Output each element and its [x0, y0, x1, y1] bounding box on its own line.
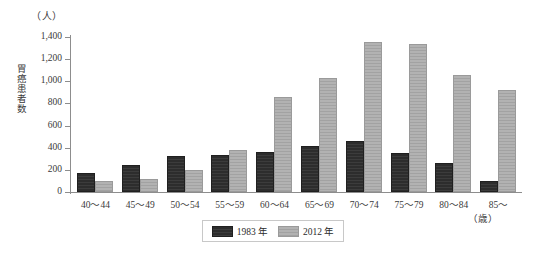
bar-1983: [391, 153, 409, 192]
bar-group: [252, 37, 297, 192]
bar-2012: [229, 150, 247, 192]
bar-1983: [301, 146, 319, 192]
legend-item-1983: 1983 年: [212, 224, 268, 238]
y-tick-label: 1,400: [0, 31, 62, 41]
bar-1983: [435, 163, 453, 192]
bar-group: [297, 37, 342, 192]
bar-2012: [453, 75, 471, 192]
y-tick-label: 200: [0, 164, 62, 174]
bar-group: [431, 37, 476, 192]
bar-group: [387, 37, 432, 192]
bar-2012: [409, 44, 427, 192]
bar-2012: [274, 97, 292, 192]
legend-label-1983: 1983 年: [237, 224, 268, 238]
legend-swatch-1983: [212, 226, 233, 237]
bar-1983: [256, 152, 274, 192]
legend-swatch-2012: [278, 226, 299, 237]
y-tick-label: 400: [0, 142, 62, 152]
bar-1983: [346, 141, 364, 192]
bar-2012: [95, 181, 113, 192]
y-tick-label: 600: [0, 120, 62, 130]
y-tick-label: 0: [0, 186, 62, 196]
bar-group: [73, 37, 118, 192]
y-tick-label: 800: [0, 97, 62, 107]
legend-label-2012: 2012 年: [303, 224, 334, 238]
y-tick-label: 1,200: [0, 53, 62, 63]
bar-1983: [167, 156, 185, 192]
bar-1983: [77, 173, 95, 192]
chart-legend: 1983 年 2012 年: [202, 220, 344, 242]
bar-group: [342, 37, 387, 192]
bar-1983: [211, 155, 229, 192]
bar-2012: [498, 90, 516, 192]
x-axis-unit-label: （歳）: [468, 211, 498, 225]
bar-group: [163, 37, 208, 192]
bar-1983: [122, 165, 140, 192]
bar-1983: [480, 181, 498, 192]
y-axis-unit-label: （人）: [31, 8, 63, 23]
x-axis-line: [70, 192, 522, 193]
bar-2012: [364, 42, 382, 192]
bar-chart-figure: （人） 胃癌患者数 02004006008001,0001,2001,400 4…: [0, 0, 534, 253]
plot-area: [70, 37, 518, 192]
bar-2012: [140, 179, 158, 192]
y-tick-mark: [65, 192, 70, 193]
bar-group: [118, 37, 163, 192]
legend-item-2012: 2012 年: [278, 224, 334, 238]
y-tick-label: 1,000: [0, 75, 62, 85]
bar-group: [476, 37, 521, 192]
bar-2012: [185, 170, 203, 192]
bar-2012: [319, 78, 337, 192]
x-tick-label: 85〜: [469, 197, 529, 211]
bar-group: [207, 37, 252, 192]
